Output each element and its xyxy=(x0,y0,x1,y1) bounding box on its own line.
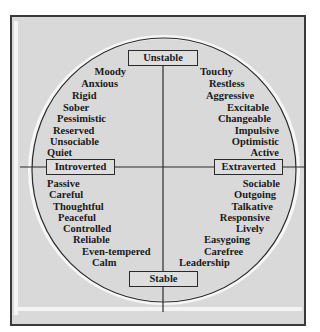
trait-changeable: Changeable xyxy=(218,113,271,125)
axis-label-introverted: Introverted xyxy=(46,159,115,175)
trait-quiet: Quiet xyxy=(47,147,72,159)
trait-calm: Calm xyxy=(92,257,117,269)
axis-label-stable: Stable xyxy=(129,271,198,287)
trait-touchy: Touchy xyxy=(200,66,233,78)
trait-easygoing: Easygoing xyxy=(204,234,250,246)
trait-aggressive: Aggressive xyxy=(206,90,254,102)
trait-outgoing: Outgoing xyxy=(234,189,276,201)
trait-pessimistic: Pessimistic xyxy=(57,113,106,125)
axis-label-unstable: Unstable xyxy=(128,50,198,66)
trait-rigid: Rigid xyxy=(72,90,97,102)
axis-label-extraverted: Extraverted xyxy=(214,159,283,175)
trait-active: Active xyxy=(250,147,279,159)
trait-careful: Careful xyxy=(49,189,83,201)
trait-moody: Moody xyxy=(95,66,127,78)
trait-reliable: Reliable xyxy=(73,234,110,246)
trait-leadership: Leadership xyxy=(179,257,230,269)
trait-restless: Restless xyxy=(209,78,245,90)
trait-anxious: Anxious xyxy=(81,78,118,90)
